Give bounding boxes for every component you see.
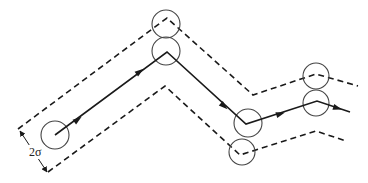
tolerance-circle <box>152 10 180 38</box>
lower-boundary-dashed-line <box>48 86 346 172</box>
tolerance-circles <box>41 10 329 165</box>
lower-boundary-line <box>48 86 346 172</box>
arrow-head-icon <box>332 104 342 112</box>
two-sigma-label: 2σ <box>29 145 42 159</box>
tolerance-circle <box>303 63 329 89</box>
trajectory-line <box>55 52 350 135</box>
direction-arrow-icons <box>73 66 343 124</box>
trajectory-path <box>55 52 350 135</box>
tolerance-circle <box>229 139 255 165</box>
arrow-head-icon <box>219 101 230 111</box>
tracking-tolerance-diagram: 2σ <box>0 0 368 183</box>
